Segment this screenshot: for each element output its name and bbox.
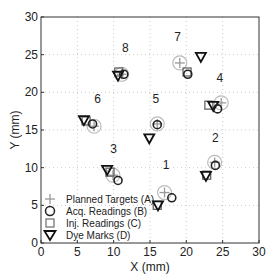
target-group-4: 4 <box>205 71 228 113</box>
legend: Planned Targets (A) Acq. Readings (B) In… <box>45 194 155 241</box>
target-label: 6 <box>94 92 101 106</box>
target-label: 4 <box>216 71 223 85</box>
target-group-2: 2 <box>201 131 222 181</box>
y-tick-label: 25 <box>25 48 39 62</box>
y-tick-label: 5 <box>31 198 38 212</box>
y-tick-label: 0 <box>31 236 38 250</box>
y-tick-label: 20 <box>25 85 39 99</box>
target-group-8: 8 <box>113 41 129 82</box>
target-label: 3 <box>110 142 117 156</box>
x-tick-label: 30 <box>252 245 266 259</box>
target-label: 5 <box>152 92 159 106</box>
legend-dye-marks: Dye Marks (D) <box>66 230 130 241</box>
y-tick-label: 30 <box>25 10 39 24</box>
x-tick-label: 10 <box>107 245 121 259</box>
scatter-chart: 051015202530051015202530 X (mm) Y (mm) 1… <box>0 0 278 278</box>
y-axis-label: Y (mm) <box>8 110 22 149</box>
target-label: 8 <box>122 41 129 55</box>
legend-acq-readings: Acq. Readings (B) <box>66 206 147 217</box>
legend-inj-readings: Inj. Readings (C) <box>66 218 141 229</box>
target-label: 1 <box>163 158 170 172</box>
legend-planned-targets: Planned Targets (A) <box>66 194 154 205</box>
square-icon <box>46 219 54 227</box>
x-tick-label: 25 <box>216 245 230 259</box>
target-label: 7 <box>174 30 181 44</box>
x-tick-label: 20 <box>180 245 194 259</box>
x-tick-label: 0 <box>38 245 45 259</box>
data-points: 12345678 <box>79 30 228 210</box>
x-tick-label: 15 <box>143 245 157 259</box>
target-group-6: 6 <box>79 92 101 133</box>
circle-icon <box>46 207 55 216</box>
x-tick-label: 5 <box>74 245 81 259</box>
chart-svg: 051015202530051015202530 X (mm) Y (mm) 1… <box>0 0 278 278</box>
triangle-down-icon <box>45 231 56 240</box>
y-tick-label: 10 <box>25 161 39 175</box>
x-axis-label: X (mm) <box>130 260 169 274</box>
target-group-5: 5 <box>144 92 164 143</box>
y-tick-label: 15 <box>25 123 39 137</box>
target-group-1: 1 <box>153 158 176 210</box>
target-label: 2 <box>212 131 219 145</box>
target-group-3: 3 <box>102 142 122 184</box>
